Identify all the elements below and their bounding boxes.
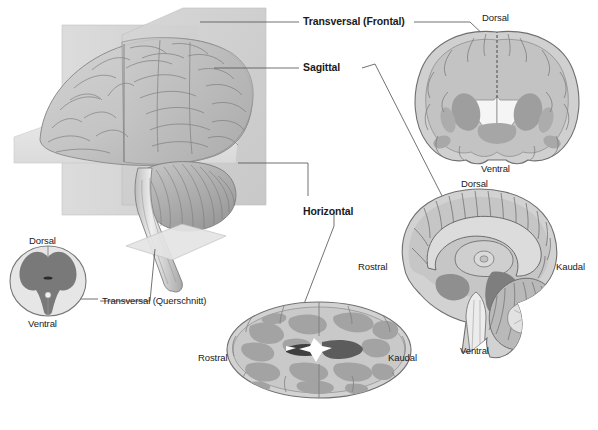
anatomy-illustration	[0, 0, 598, 430]
label-transversal-querschnitt: Transversal (Querschnitt)	[102, 295, 206, 306]
brain-cerebellum	[144, 162, 236, 231]
leader-transversal-querschnitt	[100, 249, 155, 301]
label-coronal-ventral: Ventral	[481, 163, 510, 174]
label-sagittal: Sagittal	[303, 61, 340, 73]
spinal-cord-cross-section	[10, 246, 86, 316]
label-horizontal-kaudal: Kaudal	[388, 352, 417, 363]
label-horizontal-rostral: Rostral	[198, 352, 227, 363]
label-sagittal-ventral: Ventral	[460, 345, 489, 356]
label-horizontal: Horizontal	[303, 205, 353, 217]
label-spinal-dorsal: Dorsal	[29, 235, 56, 246]
label-spinal-ventral: Ventral	[28, 318, 57, 329]
horizontal-brain-section	[227, 302, 411, 398]
label-coronal-dorsal: Dorsal	[482, 12, 509, 23]
label-transversal-frontal: Transversal (Frontal)	[303, 15, 405, 27]
transverse-cord-plane-3d	[126, 224, 226, 260]
label-sagittal-rostral: Rostral	[358, 261, 387, 272]
coronal-brain-section	[415, 30, 579, 164]
midsagittal-brain-section	[402, 189, 557, 358]
figure-canvas: Transversal (Frontal) Sagittal Horizonta…	[0, 0, 598, 430]
label-sagittal-kaudal: Kaudal	[556, 261, 585, 272]
label-sagittal-dorsal: Dorsal	[461, 178, 488, 189]
